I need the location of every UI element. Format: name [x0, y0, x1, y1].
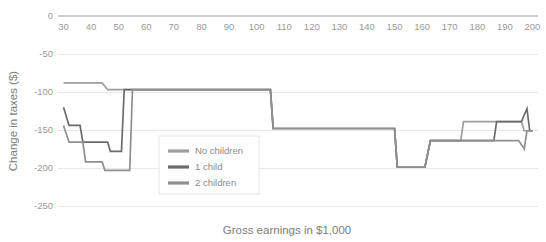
x-tick-label: 190 [497, 21, 513, 32]
y-tick-label: -50 [39, 48, 53, 59]
x-tick-label: 160 [414, 21, 430, 32]
y-axis-tick-labels: 0-50-100-150-200-250 [34, 10, 53, 211]
x-tick-label: 100 [249, 21, 265, 32]
x-tick-label: 150 [387, 21, 403, 32]
chart-legend: No children1 child2 children [159, 136, 259, 194]
x-tick-label: 110 [277, 21, 292, 32]
x-tick-label: 60 [141, 21, 152, 32]
x-tick-label: 130 [331, 21, 347, 32]
x-tick-label: 90 [224, 21, 235, 32]
legend-label: No children [195, 145, 243, 156]
legend-label: 2 children [195, 177, 236, 188]
x-tick-label: 80 [196, 21, 207, 32]
data-series [64, 83, 533, 170]
y-tick-label: -250 [34, 200, 53, 211]
x-tick-label: 70 [169, 21, 180, 32]
x-tick-label: 170 [442, 21, 458, 32]
gridlines [58, 16, 538, 206]
series-line [64, 83, 533, 167]
x-tick-label: 30 [58, 21, 69, 32]
x-axis-tick-labels: 3040506070809010011012013014015016017018… [58, 21, 540, 32]
x-tick-label: 180 [469, 21, 485, 32]
x-axis-title: Gross earnings in $1,000 [223, 224, 352, 236]
x-tick-label: 50 [113, 21, 124, 32]
y-axis-title: Change in taxes ($) [7, 71, 19, 172]
y-tick-label: 0 [48, 10, 53, 21]
line-chart: 3040506070809010011012013014015016017018… [0, 0, 546, 242]
x-tick-label: 140 [359, 21, 375, 32]
y-tick-label: -200 [34, 162, 53, 173]
legend-label: 1 child [195, 161, 222, 172]
x-tick-label: 120 [304, 21, 320, 32]
y-tick-label: -100 [34, 86, 53, 97]
x-tick-label: 40 [86, 21, 97, 32]
chart-container: 3040506070809010011012013014015016017018… [0, 0, 546, 242]
y-tick-label: -150 [34, 124, 53, 135]
x-tick-label: 200 [525, 21, 541, 32]
